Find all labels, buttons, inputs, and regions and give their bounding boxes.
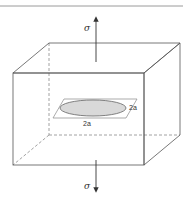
crack-plane (53, 99, 137, 118)
front-face (13, 73, 144, 165)
top-face (13, 43, 180, 73)
crack-depth-label: 2a (129, 104, 137, 111)
stress-label-top: σ (84, 23, 91, 33)
penny-crack-ellipse (60, 100, 126, 116)
hidden-depth-edge (13, 135, 49, 165)
right-face (144, 43, 180, 165)
stress-label-bottom: σ (84, 181, 91, 191)
crack-block-diagram: 2a 2a σ σ (0, 0, 189, 210)
crack-width-label: 2a (83, 120, 91, 127)
